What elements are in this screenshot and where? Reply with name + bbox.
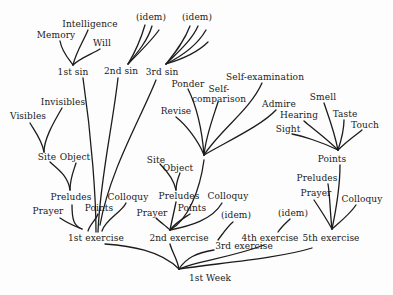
node-1st-week: 1st Week [189, 273, 231, 283]
node-sight: Sight [276, 124, 301, 134]
edge-ex3-idem [218, 222, 233, 240]
node-will: Will [93, 38, 111, 48]
node-ex2-points: Points [178, 203, 207, 213]
node-self-examination: Self-examination [226, 72, 304, 82]
node-ex1-prayer: Prayer [32, 206, 63, 216]
node-ex5-preludes: Preludes [297, 173, 338, 183]
edge-ex4-idem [278, 219, 290, 232]
node-ex5-colloquy: Colloquy [342, 194, 383, 204]
node-ex2-object: Object [163, 163, 194, 173]
node-ex2-preludes: Preludes [159, 191, 200, 201]
edge-preludes2-object [176, 173, 180, 190]
edge-hub-admire [204, 110, 276, 155]
node-ex1-preludes: Preludes [51, 192, 92, 202]
node-2nd-sin: 2nd sin [104, 66, 138, 76]
tree-branches [0, 0, 393, 295]
edge-hub-selfcomp [204, 102, 218, 155]
node-ex5-prayer: Prayer [300, 188, 331, 198]
edge-sin3-idem-a [166, 26, 190, 64]
node-4th-exercise: 4th exercise [241, 233, 298, 243]
node-2nd-exercise: 2nd exercise [149, 233, 208, 243]
node-ex1-invisibles: Invisibles [41, 97, 85, 107]
edge-preludes-site [50, 162, 70, 190]
node-memory: Memory [37, 30, 75, 40]
node-2nd-sin-idem: (idem) [136, 12, 166, 22]
exercise-tree-diagram: 1st Week 1st exercise 2nd exercise 3rd e… [0, 0, 393, 295]
node-5th-exercise: 5th exercise [302, 233, 359, 243]
node-ex1-visibles: Visibles [10, 111, 46, 121]
edge-site-invisibles [44, 108, 62, 152]
edge-sin1-memory [60, 41, 73, 65]
node-hearing: Hearing [280, 110, 318, 120]
node-revise: Revise [161, 106, 192, 116]
node-3rd-exercise-idem: (idem) [221, 210, 251, 220]
edge-week-ex1 [105, 244, 179, 269]
node-ex1-site: Site [38, 152, 56, 162]
node-touch: Touch [351, 120, 379, 130]
edge-ex5-prayer [314, 200, 332, 229]
node-ex1-points: Points [85, 203, 114, 213]
node-smell: Smell [310, 92, 336, 102]
edge-points5-hearing [304, 121, 338, 150]
node-admire: Admire [262, 99, 296, 109]
node-1st-sin: 1st sin [58, 67, 89, 77]
edge-site-visibles [30, 123, 44, 152]
edge-points5-sight [292, 134, 338, 150]
edge-sin2-idem-c [128, 30, 159, 64]
edge-preludes-object [70, 163, 76, 190]
node-3rd-sin: 3rd sin [146, 67, 179, 77]
node-3rd-sin-idem: (idem) [182, 12, 212, 22]
node-intelligence: Intelligence [62, 19, 117, 29]
node-ex2-prayer: Prayer [136, 208, 167, 218]
node-self-comparison: Self- comparison [192, 84, 246, 104]
node-ex1-object: Object [60, 152, 91, 162]
node-1st-exercise: 1st exercise [68, 233, 124, 243]
node-ex5-points: Points [318, 154, 347, 164]
edge-sin1-will [73, 49, 100, 65]
node-4th-exercise-idem: (idem) [278, 208, 308, 218]
node-ex1-colloquy: Colloquy [108, 192, 149, 202]
edge-ex2-prayer [156, 218, 170, 230]
node-taste: Taste [333, 109, 358, 119]
node-ex2-colloquy: Colloquy [208, 191, 249, 201]
